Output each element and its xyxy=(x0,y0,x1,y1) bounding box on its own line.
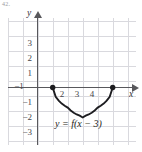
function-curve xyxy=(0,0,142,152)
endpoint-marker-right xyxy=(110,85,115,90)
graph-figure: 42. x y −1 2 3 4 3 2 1 −1 −2 −3 y = f(x … xyxy=(0,0,142,152)
equation-label: y = f(x − 3) xyxy=(55,118,102,129)
semicircle-arc xyxy=(53,88,113,118)
endpoint-marker-left xyxy=(50,85,55,90)
